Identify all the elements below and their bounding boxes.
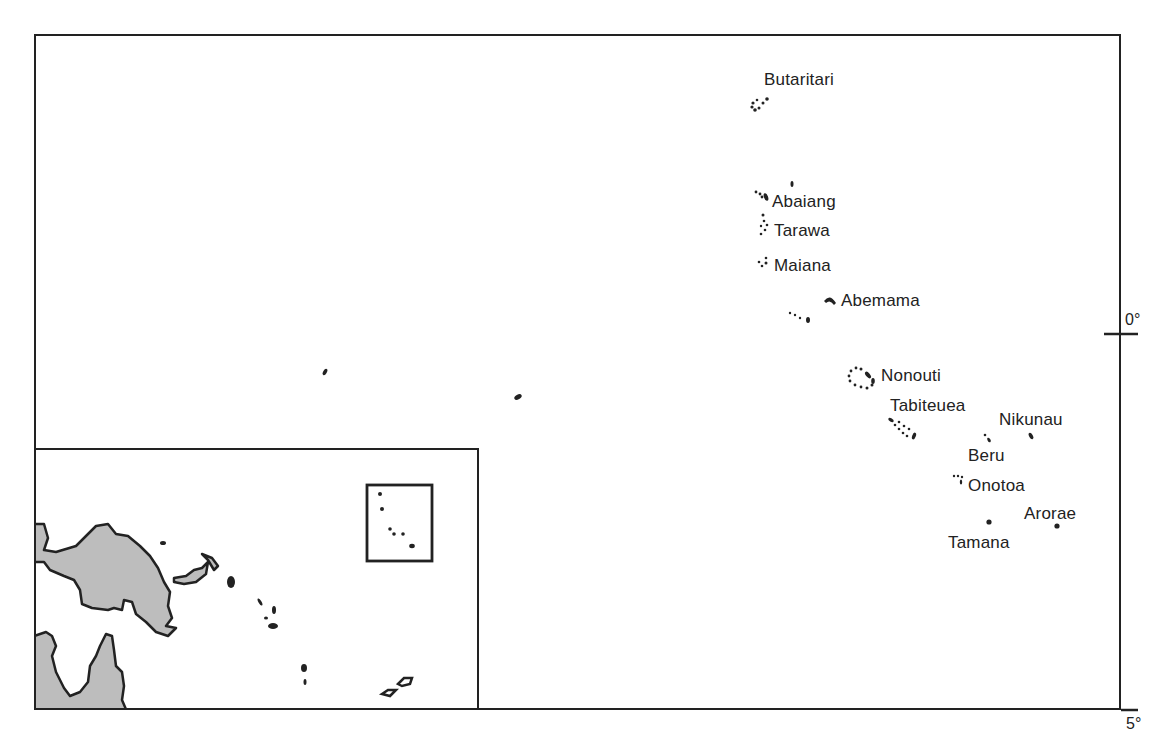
maiana-atoll-icon bbox=[758, 257, 768, 268]
butaritari-atoll-icon bbox=[750, 97, 768, 112]
islet-icon bbox=[264, 617, 268, 620]
tarawa-atoll-icon bbox=[760, 214, 769, 236]
label-nonouti: Nonouti bbox=[881, 367, 941, 384]
islet-icon bbox=[301, 664, 307, 672]
kiribati-locator-rectangle bbox=[367, 485, 432, 561]
label-butaritari: Butaritari bbox=[764, 71, 834, 88]
label-abemama: Abemama bbox=[841, 292, 920, 309]
new-guinea-landmass bbox=[36, 524, 176, 636]
beru-island-icon bbox=[984, 434, 992, 443]
label-abaiang: Abaiang bbox=[772, 193, 836, 210]
label-arorae: Arorae bbox=[1024, 505, 1076, 522]
label-tarawa: Tarawa bbox=[774, 222, 830, 239]
islet-icon bbox=[398, 678, 412, 686]
onotoa-atoll-icon bbox=[953, 475, 963, 485]
tamana-island-icon bbox=[986, 519, 991, 524]
new-britain-island bbox=[174, 562, 208, 584]
australia-landmass bbox=[36, 632, 128, 710]
abemama-atoll-icon bbox=[789, 297, 836, 323]
inset-map-shapes bbox=[36, 450, 479, 710]
label-nikunau: Nikunau bbox=[999, 411, 1063, 428]
latitude-label-0: 0° bbox=[1125, 312, 1140, 328]
islet-icon bbox=[382, 690, 396, 696]
islet-icon bbox=[513, 393, 522, 401]
guadalcanal-island bbox=[268, 623, 278, 629]
label-tamana: Tamana bbox=[948, 534, 1010, 551]
label-onotoa: Onotoa bbox=[968, 477, 1025, 494]
islet-icon bbox=[322, 368, 329, 376]
islet-icon bbox=[272, 606, 276, 614]
nikunau-island-icon bbox=[1028, 432, 1035, 440]
bougainville-island bbox=[227, 576, 235, 588]
label-beru: Beru bbox=[968, 447, 1005, 464]
islet-icon bbox=[257, 598, 264, 606]
latitude-label-5: 5° bbox=[1126, 716, 1141, 732]
label-tabiteuea: Tabiteuea bbox=[890, 397, 966, 414]
inset-locator-map bbox=[34, 448, 479, 710]
arorae-island-icon bbox=[1054, 523, 1059, 528]
islet-icon bbox=[160, 541, 166, 545]
tabiteuea-atoll-icon bbox=[888, 417, 917, 440]
islet-icon bbox=[304, 679, 307, 685]
label-maiana: Maiana bbox=[774, 257, 831, 274]
nonouti-atoll-icon bbox=[848, 367, 875, 390]
